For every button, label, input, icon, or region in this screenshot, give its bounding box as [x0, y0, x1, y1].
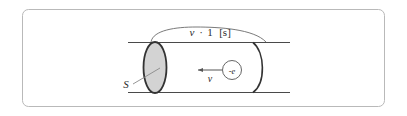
velocity-label-v: v — [208, 73, 213, 84]
cross-section-area-S — [144, 42, 167, 93]
length-label-operator: · — [199, 26, 203, 38]
length-label-time-unit: [s] — [219, 26, 231, 38]
length-label-speed-symbol: v — [190, 26, 195, 38]
area-label-S: S — [123, 78, 129, 90]
length-label-time-value: 1 — [207, 26, 213, 38]
charge-label-minus-e: -e — [229, 66, 236, 76]
figure-container: v · 1 [s] S v -e — [0, 0, 407, 116]
physics-diagram-svg: v · 1 [s] S v -e — [0, 0, 407, 116]
